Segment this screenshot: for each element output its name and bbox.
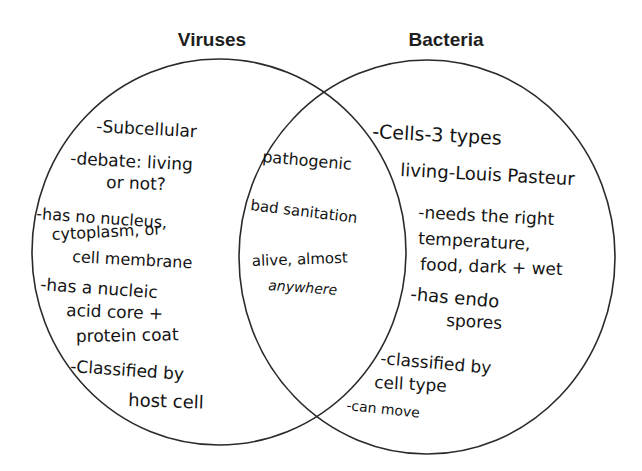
virus-item-nucleic-acid-line3: protein coat	[76, 324, 179, 346]
right-set-items: -Cells-3 types living-Louis Pasteur -nee…	[346, 120, 576, 421]
virus-item-subcellular: -Subcellular	[96, 116, 198, 141]
bacteria-item-cells: -Cells-3 types	[372, 120, 503, 149]
left-set-items: -Subcellular -debate: living or not? -ha…	[36, 116, 204, 413]
bacteria-item-classified-line2: cell type	[374, 372, 448, 396]
left-set-title: Viruses	[178, 29, 246, 50]
venn-diagram: Viruses Bacteria -Subcellular -debate: l…	[0, 0, 642, 471]
bacteria-item-living: living-Louis Pasteur	[400, 159, 576, 189]
virus-item-nucleic-acid-line2: acid core +	[66, 300, 164, 323]
bacteria-item-needs-line2: temperature,	[418, 228, 531, 254]
bacteria-item-endospores-line2: spores	[446, 310, 503, 333]
bacteria-item-can-move: -can move	[346, 397, 421, 421]
shared-item-alive-line2: anywhere	[268, 277, 338, 298]
virus-item-debate-line1: -debate: living	[70, 148, 194, 174]
shared-item-bad-sanitation: bad sanitation	[250, 196, 359, 227]
bacteria-item-needs-line1: -needs the right	[418, 202, 555, 229]
shared-item-pathogenic: pathogenic	[262, 147, 353, 174]
virus-item-debate-line2: or not?	[106, 172, 166, 194]
virus-item-classified-line1: -Classified by	[70, 356, 185, 384]
bacteria-item-endospores-line1: -has endo	[410, 283, 500, 312]
virus-item-nucleic-acid-line1: -has a nucleic	[40, 274, 159, 302]
right-set-title: Bacteria	[409, 29, 484, 50]
overlap-items: pathogenic bad sanitation alive, almost …	[250, 147, 359, 298]
virus-item-classified-line2: host cell	[128, 389, 204, 413]
shared-item-alive-line1: alive, almost	[252, 249, 349, 270]
virus-item-no-nucleus-line3: cell membrane	[72, 247, 193, 272]
bacteria-item-needs-line3: food, dark + wet	[420, 254, 563, 279]
